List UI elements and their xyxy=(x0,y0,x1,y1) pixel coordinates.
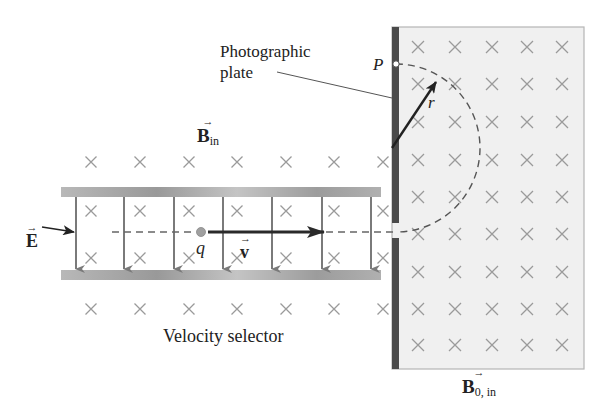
velocity-symbol: v xyxy=(240,242,249,262)
velocity-label: → v xyxy=(240,242,249,263)
cross-into-page-icon xyxy=(329,253,340,264)
cross-into-page-icon xyxy=(378,304,389,315)
e-field-label: → E xyxy=(26,231,38,252)
cross-into-page-icon xyxy=(86,253,97,264)
cross-into-page-icon xyxy=(329,304,340,315)
cross-into-page-icon xyxy=(378,253,389,264)
point-p-marker xyxy=(393,61,399,67)
e-field-symbol: E xyxy=(26,231,38,251)
cross-into-page-icon xyxy=(135,253,146,264)
cross-into-page-icon xyxy=(232,206,243,217)
photographic-plate-label-line1: Photographic xyxy=(220,41,311,62)
b-in-subscript: in xyxy=(210,134,219,148)
b0-in-label: → B0, in xyxy=(462,376,496,400)
cross-into-page-icon xyxy=(281,206,292,217)
mass-spectrometer-diagram: Photographic plate P r → Bin → E q → v V… xyxy=(0,0,600,416)
cross-into-page-icon xyxy=(86,304,97,315)
magnetic-field-region xyxy=(392,27,584,369)
cross-into-page-icon xyxy=(86,157,97,168)
vector-arrow-icon: → xyxy=(240,233,249,244)
velocity-selector xyxy=(61,157,389,315)
selector-crosses xyxy=(86,157,389,315)
cross-into-page-icon xyxy=(232,304,243,315)
cross-into-page-icon xyxy=(232,157,243,168)
charge-label: q xyxy=(196,238,205,259)
vector-arrow-icon: → xyxy=(26,222,38,233)
cross-into-page-icon xyxy=(281,253,292,264)
cross-into-page-icon xyxy=(184,304,195,315)
charge-q-particle xyxy=(197,228,206,237)
b-in-label: → Bin xyxy=(197,125,219,149)
b0-in-symbol: B xyxy=(462,376,475,397)
e-pointer-arrow xyxy=(42,227,74,232)
velocity-selector-label: Velocity selector xyxy=(163,326,283,347)
cross-into-page-icon xyxy=(86,206,97,217)
cross-into-page-icon xyxy=(281,304,292,315)
cross-into-page-icon xyxy=(329,206,340,217)
photographic-plate-label-line2: plate xyxy=(220,62,311,83)
cross-into-page-icon xyxy=(281,157,292,168)
point-p-label: P xyxy=(373,55,383,75)
vector-arrow-icon: → xyxy=(197,116,219,127)
cross-into-page-icon xyxy=(378,157,389,168)
cross-into-page-icon xyxy=(378,206,389,217)
cross-into-page-icon xyxy=(184,206,195,217)
cross-into-page-icon xyxy=(135,157,146,168)
cross-into-page-icon xyxy=(135,206,146,217)
b0-in-subscript: 0, in xyxy=(475,385,496,399)
capacitor-bottom-plate xyxy=(61,270,381,280)
b-in-symbol: B xyxy=(197,125,210,146)
vector-arrow-icon: → xyxy=(462,367,496,378)
cross-into-page-icon xyxy=(135,304,146,315)
capacitor-top-plate xyxy=(61,187,381,197)
photographic-plate-label: Photographic plate xyxy=(220,41,311,83)
cross-into-page-icon xyxy=(184,157,195,168)
radius-label: r xyxy=(428,93,435,113)
cross-into-page-icon xyxy=(329,157,340,168)
cross-into-page-icon xyxy=(184,253,195,264)
photographic-plate xyxy=(392,27,399,369)
